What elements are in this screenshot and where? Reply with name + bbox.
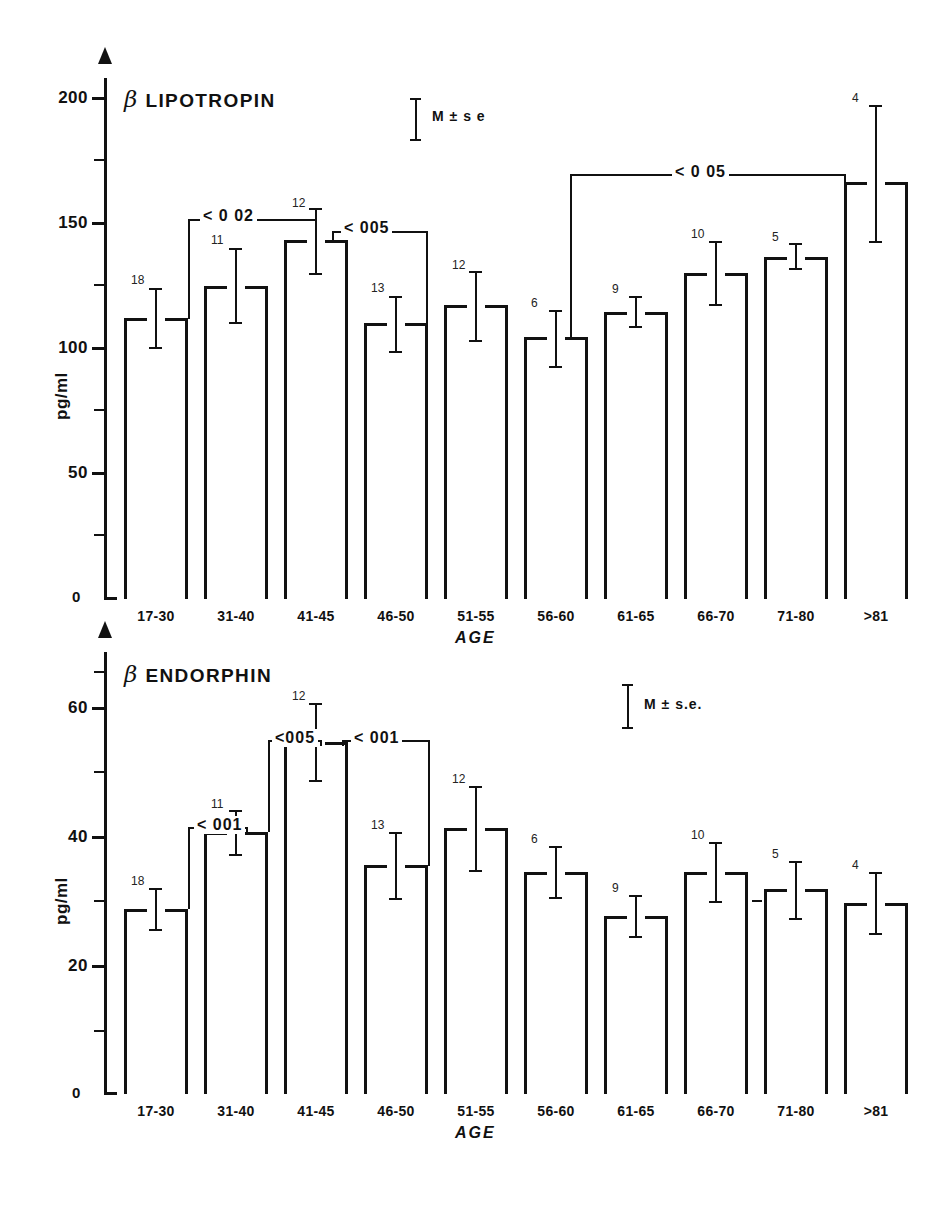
n-label-31-40-bottom: 11 bbox=[211, 797, 223, 811]
n-label-51-55-top: 12 bbox=[452, 258, 465, 272]
bar-61-65-bottom bbox=[604, 916, 668, 1094]
x-axis-title-bottom: AGE bbox=[455, 1124, 496, 1142]
errorbar-cap-lower-56-60-top bbox=[549, 366, 562, 368]
errorbar-line-56-60-bottom bbox=[555, 846, 557, 898]
sig-label-1-top: < 0 02 bbox=[200, 207, 257, 225]
x-label-56-60-top: 56-60 bbox=[518, 608, 594, 624]
y-tick-label-60-bottom: 60 bbox=[30, 698, 88, 718]
y-tick-label-150: 150 bbox=[30, 213, 88, 233]
y-tick-60-bottom bbox=[92, 707, 105, 710]
n-label-66-70-top: 10 bbox=[691, 227, 704, 241]
errorbar-cap-upper-71-80-bottom bbox=[789, 861, 802, 863]
errorbar-line-51-55-bottom bbox=[475, 786, 477, 871]
y-tick-70-bottom bbox=[94, 671, 105, 673]
x-label-31-40-bottom: 31-40 bbox=[198, 1103, 274, 1119]
errorbar-cap-lower-17-30-bottom bbox=[149, 929, 162, 931]
panel-title-top: β LIPOTROPIN bbox=[124, 86, 276, 112]
chart-panel-beta-lipotropin: 200 150 100 50 0 pg/ml β LIPOTROPIN M ± … bbox=[0, 0, 939, 660]
sig-bracket-2-right-stem-bottom bbox=[320, 740, 322, 746]
errorbar-line-17-30-top bbox=[155, 288, 157, 348]
errorbar-cap-upper-71-80-top bbox=[789, 243, 802, 245]
sig-bracket-1-left-stem-bottom bbox=[188, 827, 190, 909]
errorbar-cap-lower-71-80-top bbox=[789, 268, 802, 270]
y-tick-30-bottom bbox=[94, 900, 105, 902]
y-tick-150 bbox=[92, 222, 105, 225]
errorbar-line-51-55-top bbox=[475, 271, 477, 341]
bar-56-60-bottom bbox=[524, 872, 588, 1094]
errorbar-line-31-40-top bbox=[235, 248, 237, 323]
bar-56-60-top bbox=[524, 337, 588, 599]
errorbar-cap-upper-51-55-top bbox=[469, 271, 482, 273]
errorbar-line-61-65-top bbox=[635, 296, 637, 327]
n-label-gt81-bottom: 4 bbox=[852, 858, 859, 872]
n-label-66-70-bottom: 10 bbox=[691, 828, 704, 842]
errorbar-cap-lower-46-50-top bbox=[389, 351, 402, 353]
n-label-41-45-bottom: 12 bbox=[292, 689, 305, 703]
x-label-46-50-top: 46-50 bbox=[358, 608, 434, 624]
n-label-71-80-top: 5 bbox=[772, 230, 779, 244]
errorbar-cap-upper-56-60-bottom bbox=[549, 846, 562, 848]
y-axis-title-bottom: pg/ml bbox=[52, 877, 72, 925]
n-label-56-60-bottom: 6 bbox=[531, 832, 538, 846]
errorbar-cap-upper-31-40-top bbox=[229, 248, 242, 250]
y-axis-arrow-bottom bbox=[98, 621, 112, 638]
n-label-61-65-bottom: 9 bbox=[612, 881, 619, 895]
n-label-46-50-top: 13 bbox=[371, 281, 384, 295]
sig-bracket-2-left-stem-bottom bbox=[268, 740, 270, 832]
errorbar-line-61-65-bottom bbox=[635, 895, 637, 937]
errorbar-cap-upper-66-70-bottom bbox=[709, 842, 722, 844]
sig-label-1-bottom: < 001 bbox=[194, 816, 245, 834]
y-tick-100 bbox=[92, 347, 105, 350]
errorbar-line-66-70-bottom bbox=[715, 842, 717, 902]
y-tick-label-20-bottom: 20 bbox=[30, 956, 88, 976]
errorbar-cap-upper-46-50-top bbox=[389, 296, 402, 298]
errorbar-line-41-45-top bbox=[315, 208, 317, 274]
n-label-46-50-bottom: 13 bbox=[371, 818, 384, 832]
bar-51-55-top bbox=[444, 305, 508, 599]
errorbar-line-17-30-bottom bbox=[155, 888, 157, 930]
y-tick-25 bbox=[94, 534, 105, 536]
errorbar-cap-lower-41-45-top bbox=[309, 273, 322, 275]
legend-errorbar-line-top bbox=[415, 98, 417, 140]
errorbar-cap-upper-41-45-bottom bbox=[309, 703, 322, 705]
x-label-66-70-bottom: 66-70 bbox=[678, 1103, 754, 1119]
errorbar-line-66-70-top bbox=[715, 241, 717, 305]
n-label-gt81-top: 4 bbox=[852, 91, 859, 105]
y-tick-75 bbox=[94, 409, 105, 411]
errorbar-cap-upper-66-70-top bbox=[709, 241, 722, 243]
errorbar-cap-upper-46-50-bottom bbox=[389, 832, 402, 834]
beta-symbol-top: β bbox=[124, 86, 139, 112]
errorbar-cap-lower-17-30-top bbox=[149, 347, 162, 349]
y-axis-title-top: pg/ml bbox=[52, 372, 72, 420]
y-tick-label-0-bottom: 0 bbox=[72, 1084, 80, 1101]
x-label-71-80-top: 71-80 bbox=[758, 608, 834, 624]
y-tick-40-bottom bbox=[92, 836, 105, 839]
y-tick-125 bbox=[94, 284, 105, 286]
errorbar-line-gt81-bottom bbox=[875, 872, 877, 934]
errorbar-cap-upper-56-60-top bbox=[549, 310, 562, 312]
errorbar-cap-lower-61-65-bottom bbox=[629, 936, 642, 938]
legend-errorbar-cap-lower-bottom bbox=[622, 727, 633, 729]
errorbar-cap-lower-61-65-top bbox=[629, 326, 642, 328]
x-label-56-60-bottom: 56-60 bbox=[518, 1103, 594, 1119]
errorbar-cap-lower-31-40-top bbox=[229, 322, 242, 324]
n-label-56-60-top: 6 bbox=[531, 296, 538, 310]
legend-errorbar-cap-upper-top bbox=[410, 98, 421, 100]
sig-bracket-1-right-stem-bottom bbox=[246, 827, 248, 835]
y-tick-175 bbox=[94, 159, 105, 161]
y-tick-label-100: 100 bbox=[30, 338, 88, 358]
x-label-17-30-bottom: 17-30 bbox=[118, 1103, 194, 1119]
sig-label-2-top: < 005 bbox=[341, 219, 392, 237]
errorbar-line-gt81-top bbox=[875, 105, 877, 242]
sig-label-3-bottom: < 001 bbox=[351, 729, 402, 747]
figure-canvas: 200 150 100 50 0 pg/ml β LIPOTROPIN M ± … bbox=[0, 0, 939, 1207]
y-tick-50-bottom bbox=[94, 771, 105, 773]
y-tick-label-0: 0 bbox=[72, 588, 80, 605]
y-tick-50 bbox=[92, 472, 105, 475]
x-label-61-65-bottom: 61-65 bbox=[598, 1103, 674, 1119]
sig-bracket-3-right-stem-top bbox=[844, 174, 846, 184]
stray-mark-bottom bbox=[752, 900, 762, 902]
x-label-41-45-bottom: 41-45 bbox=[278, 1103, 354, 1119]
y-axis-line-bottom bbox=[104, 652, 107, 1094]
n-label-17-30-bottom: 18 bbox=[131, 874, 144, 888]
